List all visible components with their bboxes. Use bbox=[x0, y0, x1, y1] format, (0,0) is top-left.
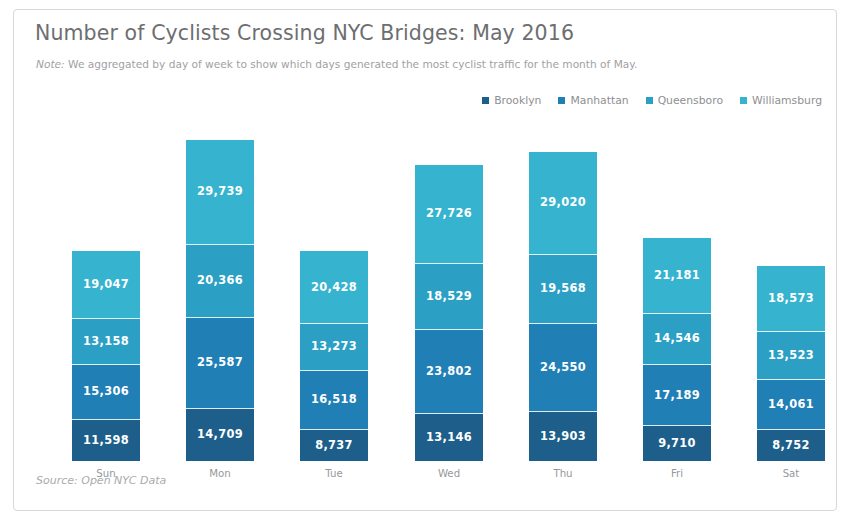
bar-segment[interactable]: 8,752 bbox=[757, 430, 825, 461]
bar-segment[interactable]: 29,739 bbox=[186, 140, 254, 246]
bar-segment[interactable]: 16,518 bbox=[300, 371, 368, 430]
bar-segment[interactable]: 20,428 bbox=[300, 251, 368, 324]
bar-segment[interactable]: 19,568 bbox=[529, 255, 597, 325]
bar-segment[interactable]: 20,366 bbox=[186, 245, 254, 317]
bar-segment[interactable]: 8,737 bbox=[300, 430, 368, 461]
bar-segment[interactable]: 18,529 bbox=[415, 264, 483, 330]
bar-segment[interactable]: 15,306 bbox=[72, 365, 140, 419]
bar-segment[interactable]: 18,573 bbox=[757, 266, 825, 332]
bar-segment[interactable]: 14,709 bbox=[186, 409, 254, 461]
bar-group: 20,42813,27316,5188,737 bbox=[300, 251, 368, 461]
bar-segment-value: 13,158 bbox=[83, 336, 129, 347]
chart-plot-area: 19,04713,15815,30611,598Sun29,73920,3662… bbox=[14, 10, 836, 510]
bar-segment[interactable]: 24,550 bbox=[529, 324, 597, 411]
bar-group: 18,57313,52314,0618,752 bbox=[757, 266, 825, 461]
bar-stack: 27,72618,52923,80213,146 bbox=[415, 165, 483, 461]
bar-segment-value: 20,428 bbox=[311, 282, 357, 293]
bar-segment-value: 29,739 bbox=[197, 186, 243, 197]
x-axis-label: Fri bbox=[637, 468, 717, 479]
bar-segment[interactable]: 27,726 bbox=[415, 165, 483, 264]
bar-segment-value: 9,710 bbox=[658, 438, 696, 449]
bar-segment-value: 13,273 bbox=[311, 341, 357, 352]
bar-segment[interactable]: 17,189 bbox=[643, 365, 711, 426]
bar-segment-value: 24,550 bbox=[540, 362, 586, 373]
bar-segment-value: 23,802 bbox=[426, 366, 472, 377]
bar-segment[interactable]: 13,273 bbox=[300, 324, 368, 371]
bar-segment-value: 17,189 bbox=[654, 390, 700, 401]
bar-group: 29,73920,36625,58714,709 bbox=[186, 140, 254, 461]
source-note: Source: Open NYC Data bbox=[36, 474, 166, 487]
bar-stack: 21,18114,54617,1899,710 bbox=[643, 238, 711, 461]
bar-segment[interactable]: 14,546 bbox=[643, 314, 711, 366]
bar-group: 21,18114,54617,1899,710 bbox=[643, 238, 711, 461]
x-axis-label: Sat bbox=[751, 468, 831, 479]
bar-segment[interactable]: 21,181 bbox=[643, 238, 711, 313]
bar-stack: 29,73920,36625,58714,709 bbox=[186, 140, 254, 461]
bar-segment[interactable]: 13,523 bbox=[757, 332, 825, 380]
bar-group: 27,72618,52923,80213,146 bbox=[415, 165, 483, 461]
bar-segment-value: 8,737 bbox=[315, 440, 353, 451]
bar-segment[interactable]: 9,710 bbox=[643, 426, 711, 461]
bar-segment-value: 13,523 bbox=[768, 350, 814, 361]
bar-segment-value: 18,573 bbox=[768, 293, 814, 304]
bar-group: 19,04713,15815,30611,598 bbox=[72, 251, 140, 461]
bar-segment-value: 14,709 bbox=[197, 429, 243, 440]
bar-segment[interactable]: 13,903 bbox=[529, 412, 597, 461]
bar-segment-value: 20,366 bbox=[197, 275, 243, 286]
bar-segment[interactable]: 25,587 bbox=[186, 318, 254, 409]
bar-segment-value: 19,047 bbox=[83, 279, 129, 290]
bar-group: 29,02019,56824,55013,903 bbox=[529, 152, 597, 461]
bar-stack: 29,02019,56824,55013,903 bbox=[529, 152, 597, 461]
bar-segment-value: 8,752 bbox=[772, 440, 810, 451]
bar-segment-value: 15,306 bbox=[83, 386, 129, 397]
bar-segment[interactable]: 13,146 bbox=[415, 414, 483, 461]
bar-segment[interactable]: 13,158 bbox=[72, 319, 140, 366]
bar-segment[interactable]: 11,598 bbox=[72, 420, 140, 461]
bar-segment[interactable]: 19,047 bbox=[72, 251, 140, 319]
bar-segment-value: 14,546 bbox=[654, 333, 700, 344]
bar-segment-value: 21,181 bbox=[654, 270, 700, 281]
x-axis-label: Mon bbox=[180, 468, 260, 479]
bar-segment-value: 25,587 bbox=[197, 357, 243, 368]
x-axis-label: Tue bbox=[294, 468, 374, 479]
bar-stack: 20,42813,27316,5188,737 bbox=[300, 251, 368, 461]
bar-segment[interactable]: 29,020 bbox=[529, 152, 597, 255]
bar-segment-value: 13,903 bbox=[540, 431, 586, 442]
bar-stack: 19,04713,15815,30611,598 bbox=[72, 251, 140, 461]
bar-segment[interactable]: 14,061 bbox=[757, 380, 825, 430]
bar-segment-value: 14,061 bbox=[768, 399, 814, 410]
bar-segment-value: 16,518 bbox=[311, 394, 357, 405]
bar-segment[interactable]: 23,802 bbox=[415, 330, 483, 415]
chart-card: Number of Cyclists Crossing NYC Bridges:… bbox=[13, 9, 837, 511]
x-axis-label: Thu bbox=[523, 468, 603, 479]
bar-segment-value: 13,146 bbox=[426, 432, 472, 443]
x-axis-label: Wed bbox=[409, 468, 489, 479]
bar-segment-value: 27,726 bbox=[426, 208, 472, 219]
bar-segment-value: 18,529 bbox=[426, 291, 472, 302]
bar-segment-value: 29,020 bbox=[540, 197, 586, 208]
bar-segment-value: 11,598 bbox=[83, 435, 129, 446]
bar-segment-value: 19,568 bbox=[540, 283, 586, 294]
bar-stack: 18,57313,52314,0618,752 bbox=[757, 266, 825, 461]
